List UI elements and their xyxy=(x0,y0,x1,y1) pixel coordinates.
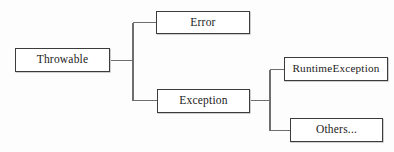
node-error-label: Error xyxy=(190,16,215,28)
node-throwable-label: Throwable xyxy=(37,54,89,66)
node-exception-label: Exception xyxy=(179,95,227,107)
node-exception[interactable]: Exception xyxy=(157,89,250,113)
node-others-label: Others... xyxy=(316,124,357,136)
node-throwable[interactable]: Throwable xyxy=(15,48,110,72)
node-runtimeexception[interactable]: RuntimeException xyxy=(284,57,388,81)
node-runtimeexception-label: RuntimeException xyxy=(292,63,379,74)
node-others[interactable]: Others... xyxy=(290,118,383,142)
throwable-hierarchy-diagram: Throwable Error Exception RuntimeExcepti… xyxy=(0,0,394,152)
node-error[interactable]: Error xyxy=(156,11,250,34)
